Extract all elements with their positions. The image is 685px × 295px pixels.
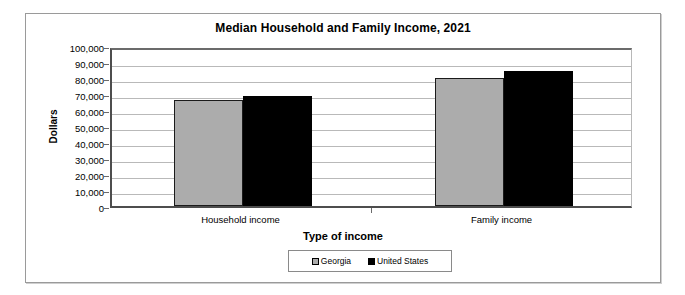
y-axis-tick-mark bbox=[104, 176, 109, 177]
y-axis-tick-mark bbox=[104, 112, 109, 113]
gridline bbox=[112, 66, 631, 67]
y-axis-tick-label: 90,000 bbox=[52, 60, 104, 69]
y-axis-tick-label: 50,000 bbox=[52, 124, 104, 133]
legend-swatch-icon bbox=[368, 258, 375, 265]
y-axis-tick-mark bbox=[104, 192, 109, 193]
chart-legend: GeorgiaUnited States bbox=[288, 250, 452, 272]
x-axis-category-label: Family income bbox=[371, 214, 632, 225]
bar-united-states-family-income bbox=[504, 71, 573, 206]
y-axis-tick-label: 40,000 bbox=[52, 140, 104, 149]
plot-area bbox=[110, 48, 632, 208]
y-axis-tick-label: 60,000 bbox=[52, 108, 104, 117]
y-axis-tick-label: 80,000 bbox=[52, 76, 104, 85]
bar-united-states-household-income bbox=[243, 96, 312, 206]
x-axis-title: Type of income bbox=[26, 230, 660, 242]
y-axis-tick-label: 70,000 bbox=[52, 92, 104, 101]
y-axis-tick-mark bbox=[104, 160, 109, 161]
y-axis-tick-mark bbox=[104, 80, 109, 81]
legend-swatch-icon bbox=[312, 258, 319, 265]
y-axis-tick-label: 30,000 bbox=[52, 156, 104, 165]
y-axis-tick-mark bbox=[104, 128, 109, 129]
x-axis-tick-mark bbox=[371, 208, 372, 213]
chart-title: Median Household and Family Income, 2021 bbox=[26, 21, 660, 35]
y-axis-tick-mark bbox=[104, 208, 109, 209]
y-axis-tick-labels: 100,00090,00080,00070,00060,00050,00040,… bbox=[48, 48, 104, 208]
y-axis-tick-mark bbox=[104, 48, 109, 49]
legend-label: United States bbox=[377, 256, 428, 266]
y-axis-tick-label: 10,000 bbox=[52, 188, 104, 197]
legend-entry-georgia[interactable]: Georgia bbox=[312, 256, 351, 266]
legend-label: Georgia bbox=[321, 256, 351, 266]
x-axis-category-label: Household income bbox=[110, 214, 371, 225]
y-axis-tick-label: 20,000 bbox=[52, 172, 104, 181]
y-axis-tick-label: 0 bbox=[52, 204, 104, 213]
y-axis-tick-mark bbox=[104, 96, 109, 97]
bar-georgia-household-income bbox=[174, 100, 243, 206]
chart-container: Median Household and Family Income, 2021… bbox=[25, 13, 661, 283]
y-axis-tick-label: 100,000 bbox=[52, 44, 104, 53]
y-axis-tick-mark bbox=[104, 64, 109, 65]
y-axis-tick-mark bbox=[104, 144, 109, 145]
legend-entry-united-states[interactable]: United States bbox=[368, 256, 428, 266]
bar-georgia-family-income bbox=[435, 78, 504, 206]
